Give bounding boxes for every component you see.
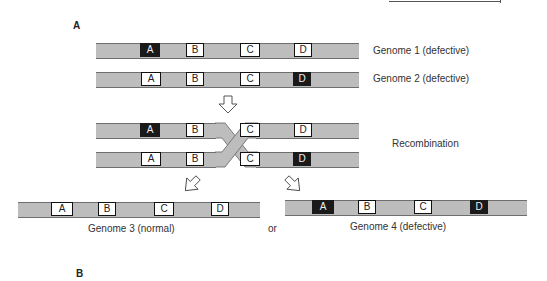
genome4-label: Genome 4 (defective) xyxy=(350,221,446,232)
down-right-arrow-icon xyxy=(281,172,305,196)
gene-b: B xyxy=(98,202,116,216)
recomb-top-right: C D xyxy=(256,123,359,139)
gene-c: C xyxy=(240,123,260,137)
recomb-bottom-right: C D xyxy=(256,152,359,168)
gene-a: A xyxy=(141,152,161,166)
down-arrow-icon xyxy=(219,96,237,113)
gene-a: A xyxy=(51,202,73,216)
or-connector: or xyxy=(268,223,277,234)
gene-a: A xyxy=(140,123,160,137)
gene-c: C xyxy=(154,202,174,216)
arrows-layer xyxy=(0,0,547,281)
gene-d: D xyxy=(470,200,488,214)
gene-c: C xyxy=(240,152,260,166)
gene-b: B xyxy=(186,123,204,137)
down-left-arrow-icon xyxy=(180,172,204,196)
recomb-top-left: A B xyxy=(96,123,216,139)
panel-b-label: B xyxy=(76,268,83,279)
gene-d: D xyxy=(211,202,229,216)
genome4-chromosome: A B C D xyxy=(285,200,527,216)
gene-b: B xyxy=(186,152,204,166)
genome3-label: Genome 3 (normal) xyxy=(88,223,175,234)
gene-d: D xyxy=(293,152,311,166)
gene-d: D xyxy=(294,123,312,137)
recomb-bottom-left: A B xyxy=(96,152,216,168)
gene-c: C xyxy=(414,200,432,214)
genome3-chromosome: A B C D xyxy=(18,202,260,218)
recombination-label: Recombination xyxy=(392,138,459,149)
gene-b: B xyxy=(358,200,376,214)
gene-a: A xyxy=(312,200,334,214)
